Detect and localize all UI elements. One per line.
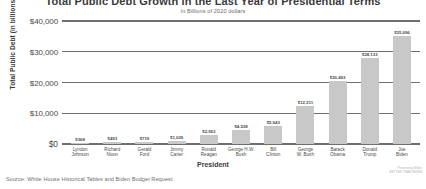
x-axis-tick: Joe Biden	[385, 147, 419, 158]
x-axis-tick: Bill Clinton	[256, 147, 290, 158]
chart-subtitle: In Billions of 2020 dollars	[0, 8, 426, 14]
x-axis-tick: Lyndon Johnson	[63, 147, 97, 158]
watermark-attribution: Presenting Biden BETTER THAN BIDEN	[389, 166, 422, 174]
bar[interactable]	[361, 58, 379, 145]
x-axis-tick: George W. Bush	[288, 147, 322, 158]
bar-column[interactable]: $20,493Barack Obama	[322, 21, 354, 144]
x-axis-label: President	[0, 161, 426, 168]
bar[interactable]	[296, 106, 314, 144]
y-axis-label: Total Public Debt (in billions)	[9, 0, 16, 99]
bar-series: $368Lyndon Johnson$493Richard Nixon$719G…	[62, 21, 420, 144]
bar-column[interactable]: $12,311George W. Bush	[289, 21, 321, 144]
y-axis-tick: $20,000	[30, 78, 58, 87]
bar[interactable]	[168, 141, 186, 144]
plot-area: $0$10,000$20,000$30,000$40,000 $368Lyndo…	[62, 21, 420, 144]
y-axis-tick: $10,000	[30, 109, 58, 118]
bar-column[interactable]: $5,943Bill Clinton	[257, 21, 289, 144]
x-axis-tick: Barack Obama	[321, 147, 355, 158]
bar[interactable]	[71, 143, 89, 144]
x-axis-tick: Gerald Ford	[127, 147, 161, 158]
y-axis-tick: $30,000	[30, 47, 58, 56]
bar-value-label: $368	[75, 137, 85, 142]
bar-column[interactable]: $493Richard Nixon	[96, 21, 128, 144]
bar-value-label: $2,953	[202, 129, 215, 134]
chart-container: Total Public Debt Growth in the Last Yea…	[0, 0, 426, 189]
source-note: Source: White House Historical Tables an…	[6, 176, 173, 182]
bar-column[interactable]: $28,133Donald Trump	[354, 21, 386, 144]
bar-value-label: $719	[140, 136, 150, 141]
x-axis-tick: Richard Nixon	[95, 147, 129, 158]
bar[interactable]	[393, 36, 411, 144]
bar-column[interactable]: $4,538George H.W. Bush	[225, 21, 257, 144]
bar-value-label: $28,133	[362, 52, 378, 57]
bar-value-label: $12,311	[298, 100, 313, 105]
y-axis-tick: $0	[49, 139, 58, 149]
x-axis-tick: George H.W. Bush	[224, 147, 258, 158]
bar[interactable]	[264, 126, 282, 144]
bar-value-label: $1,029	[170, 135, 183, 140]
bar[interactable]	[103, 142, 121, 144]
x-axis-tick: Jimmy Carter	[160, 147, 194, 158]
bar-value-label: $5,943	[267, 120, 280, 125]
bar[interactable]	[232, 130, 250, 144]
bar[interactable]	[329, 81, 347, 144]
bar-value-label: $493	[107, 136, 117, 141]
bar-column[interactable]: $368Lyndon Johnson	[64, 21, 96, 144]
chart-title: Total Public Debt Growth in the Last Yea…	[0, 0, 426, 7]
y-axis-tick: $40,000	[30, 17, 58, 26]
bar-value-label: $20,493	[330, 75, 346, 80]
x-axis-tick: Ronald Reagan	[192, 147, 226, 158]
bar-column[interactable]: $1,029Jimmy Carter	[161, 21, 193, 144]
bar-value-label: $35,096	[394, 30, 410, 35]
bar-column[interactable]: $719Gerald Ford	[128, 21, 160, 144]
bar-column[interactable]: $35,096Joe Biden	[386, 21, 418, 144]
bar-value-label: $4,538	[234, 124, 247, 129]
x-axis-tick: Donald Trump	[353, 147, 387, 158]
bar[interactable]	[200, 135, 218, 144]
bar[interactable]	[135, 142, 153, 144]
bar-column[interactable]: $2,953Ronald Reagan	[193, 21, 225, 144]
